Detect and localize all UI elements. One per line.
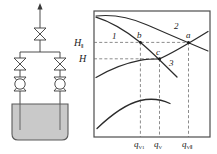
two-pumps-in-parallel-schematic	[0, 0, 90, 154]
H-label: H	[78, 53, 87, 64]
outlet-arrow	[37, 3, 42, 22]
qv-label: qV	[154, 139, 163, 150]
marker-b	[139, 41, 142, 44]
tank	[12, 104, 68, 140]
pump-right	[54, 77, 66, 91]
marker-c	[158, 57, 161, 60]
figure-root: 1 2 3 b a c HⅡ H qV1 qV qVⅡ	[0, 0, 217, 154]
efficiency-curve-path	[97, 99, 170, 128]
qv2-label: qVⅡ	[182, 139, 192, 150]
curve-3-label: 3	[168, 58, 174, 68]
pump-left	[14, 77, 26, 91]
main-valve	[34, 28, 46, 40]
branch-valve-right	[54, 58, 66, 70]
characteristic-curves-chart: 1 2 3 b a c HⅡ H qV1 qV qVⅡ	[86, 8, 214, 148]
marker-a	[187, 41, 190, 44]
qv1-label: qV1	[134, 139, 145, 150]
point-a-label: a	[186, 30, 191, 40]
point-c-label: c	[156, 47, 160, 57]
point-b-label: b	[137, 30, 142, 40]
branch-valve-left	[14, 58, 26, 70]
curve-1-label: 1	[112, 31, 117, 41]
branch-header	[20, 52, 60, 58]
point-markers	[139, 41, 190, 61]
plot-frame	[94, 11, 210, 137]
curve-2-label: 2	[174, 21, 179, 31]
curve-1-path	[96, 17, 177, 77]
